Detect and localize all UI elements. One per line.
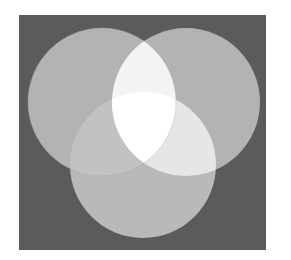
venn-diagram-canvas: [0, 0, 291, 260]
venn-diagram: [0, 0, 291, 260]
